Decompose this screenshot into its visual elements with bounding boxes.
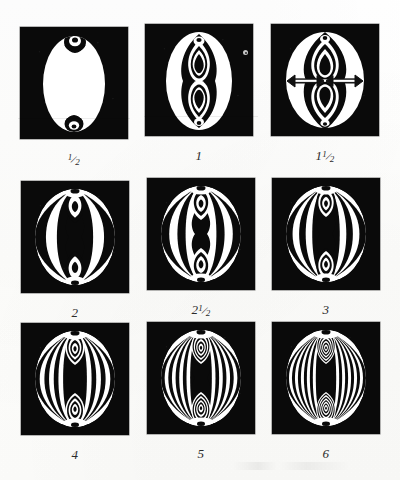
fringe-stack-6 — [35, 330, 115, 427]
interference-figure-2-half — [147, 178, 255, 290]
fringe-stack-4 — [161, 185, 241, 282]
fringe-stack-8 — [286, 329, 366, 426]
figure-caption: 6 — [272, 447, 380, 460]
caption-denominator: 2 — [206, 308, 211, 318]
figure-panel[interactable] — [272, 178, 380, 290]
caption-denominator: 2 — [75, 157, 80, 167]
fringe-stack-7 — [161, 329, 241, 426]
figure-panel[interactable] — [145, 24, 253, 136]
interference-figure-6 — [272, 322, 380, 434]
figure-caption: 2 — [21, 306, 129, 319]
figure-cell: 21/2 — [147, 178, 261, 316]
figure-caption: 1/2 — [20, 152, 128, 165]
figure-panel[interactable] — [21, 323, 129, 435]
figure-panel[interactable] — [272, 322, 380, 434]
interference-figure-half — [20, 27, 128, 139]
figure-cell: 5 — [147, 322, 261, 460]
figure-panel[interactable] — [147, 178, 255, 290]
caption-fraction: 1/2 — [322, 151, 334, 162]
interference-figure-3 — [272, 178, 380, 290]
figure-cell: 1 — [145, 24, 259, 162]
figure-cell: 3 — [272, 178, 386, 316]
figure-caption: 1 — [145, 149, 253, 162]
interference-figure-4 — [21, 323, 129, 435]
figure-caption: 5 — [147, 447, 255, 460]
scan-speck-core — [245, 52, 247, 54]
caption-fraction: 1/2 — [198, 305, 210, 316]
figure-cell: 4 — [21, 323, 135, 461]
figure-caption: 4 — [21, 448, 129, 461]
figure-cell: 11/2 — [271, 24, 385, 162]
interference-figure-1-half — [271, 24, 379, 136]
interference-figure-1 — [145, 24, 253, 136]
scan-line — [18, 118, 130, 119]
figure-caption: 3 — [272, 303, 380, 316]
figure-panel[interactable] — [271, 24, 379, 136]
figure-grid: 1/2 — [0, 0, 400, 480]
figure-panel[interactable] — [147, 322, 255, 434]
interference-figure-2 — [21, 181, 129, 293]
caption-fraction: 1/2 — [68, 154, 80, 165]
scan-smudge — [232, 462, 352, 470]
figure-cell: 1/2 — [20, 27, 134, 165]
figure-panel[interactable] — [21, 181, 129, 293]
caption-denominator: 2 — [330, 154, 335, 164]
scan-line — [144, 116, 258, 117]
figure-caption: 11/2 — [271, 149, 379, 162]
fringe-stack-2 — [35, 188, 115, 285]
figure-cell: 2 — [21, 181, 135, 319]
figure-panel[interactable] — [20, 27, 128, 139]
interference-figure-5 — [147, 322, 255, 434]
fringe-stack-5 — [286, 185, 366, 282]
figure-caption: 21/2 — [147, 303, 255, 316]
figure-cell: 6 — [272, 322, 386, 460]
